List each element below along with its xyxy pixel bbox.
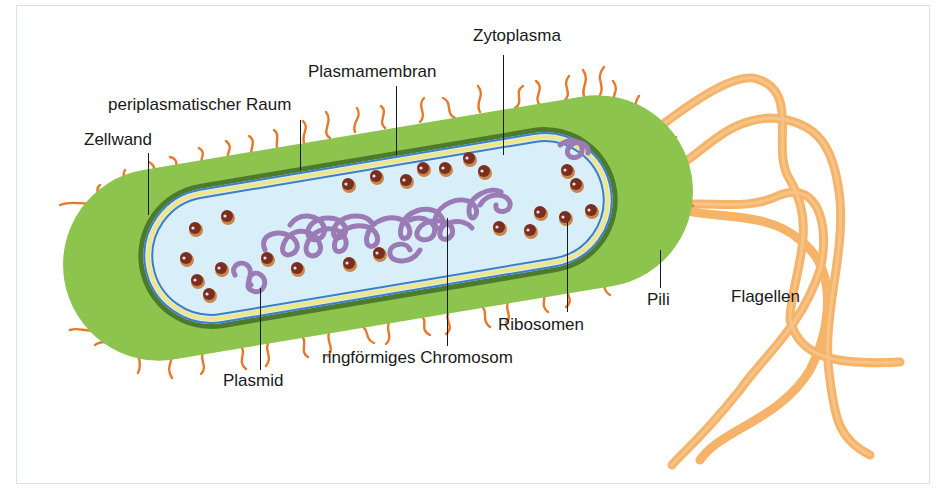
leader-zellwand (148, 153, 149, 215)
label-ringfoermiges-chromosom: ringförmiges Chromosom (322, 349, 513, 366)
label-zytoplasma: Zytoplasma (473, 27, 561, 44)
label-plasmamembran: Plasmamembran (308, 63, 437, 80)
leader-periplasma (300, 120, 301, 170)
label-periplasmatischer-raum: periplasmatischer Raum (108, 96, 291, 113)
label-pili: Pili (647, 291, 670, 308)
bacterium-illustration (0, 0, 937, 493)
leader-plasmid (260, 288, 261, 370)
label-plasmid: Plasmid (223, 372, 283, 389)
leader-chromosom (447, 218, 448, 346)
leader-plasmamembran (396, 86, 397, 155)
label-flagellen: Flagellen (731, 288, 800, 305)
leader-pili (660, 250, 661, 288)
flagella (645, 78, 900, 465)
cell-body (49, 81, 708, 375)
label-ribosomen: Ribosomen (498, 316, 584, 333)
label-zellwand: Zellwand (84, 131, 152, 148)
leader-zytoplasma (503, 55, 504, 155)
leader-ribosomen (567, 222, 568, 312)
